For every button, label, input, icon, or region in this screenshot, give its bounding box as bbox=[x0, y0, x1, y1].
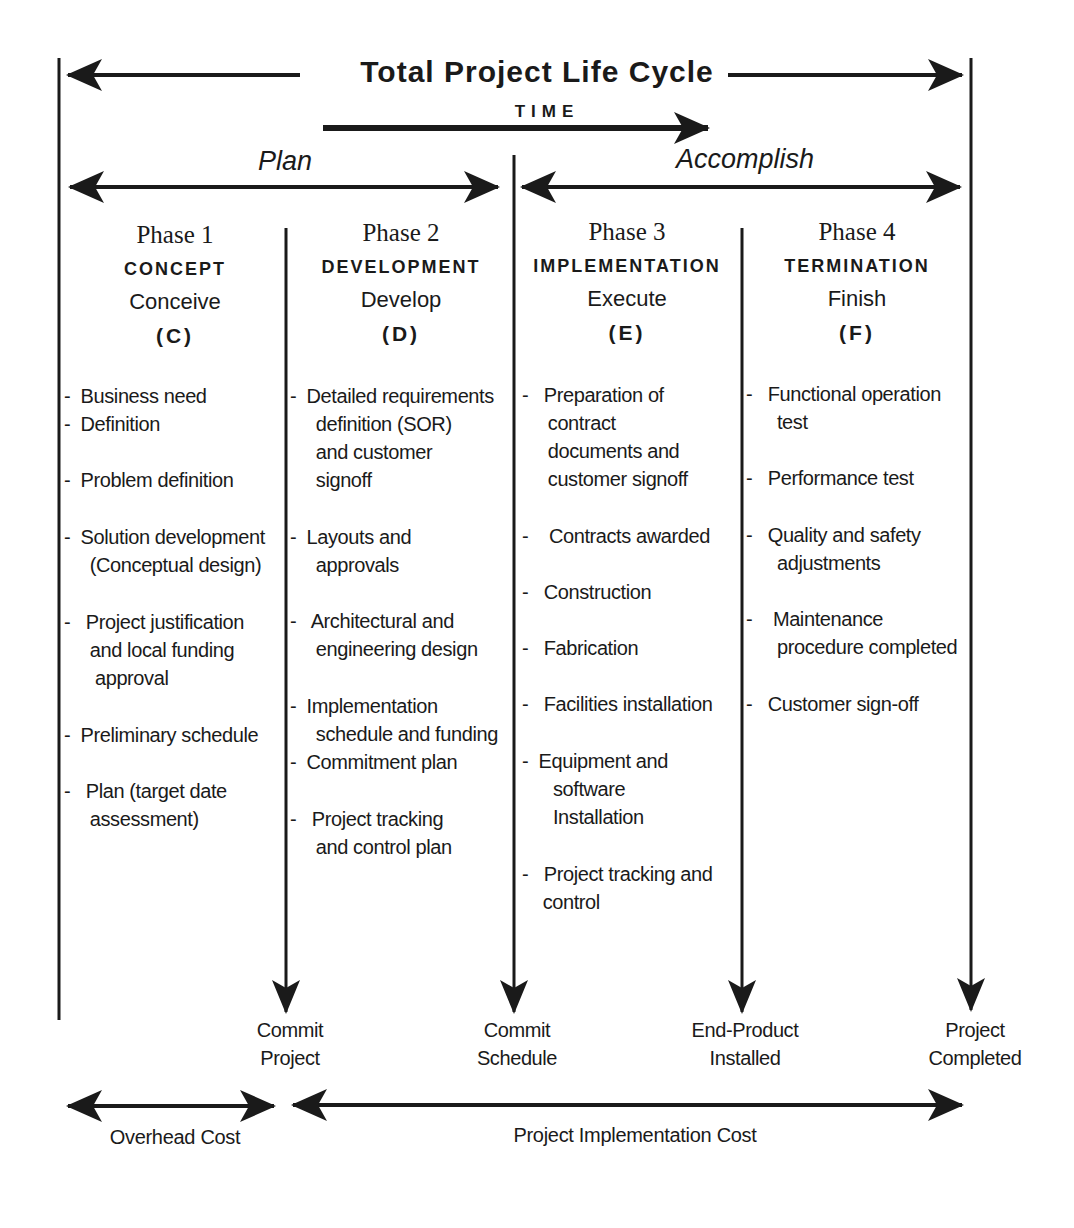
phase-1-item: - Problem definition bbox=[64, 466, 233, 494]
phase-3-verb: Execute bbox=[512, 283, 742, 315]
phase-4-item: - Quality and safety adjustments bbox=[746, 521, 921, 577]
phase-4-verb: Finish bbox=[742, 283, 972, 315]
milestone-project-completed: Project Completed bbox=[895, 1016, 1055, 1072]
milestone-end-product-installed: End-Product Installed bbox=[665, 1016, 825, 1072]
milestone-commit-schedule: Commit Schedule bbox=[437, 1016, 597, 1072]
implementation-cost-label: Project Implementation Cost bbox=[440, 1124, 830, 1147]
phase-1-verb: Conceive bbox=[60, 286, 290, 318]
phase-2-number: Phase 2 bbox=[286, 216, 516, 250]
phase-4-item: - Customer sign-off bbox=[746, 690, 918, 718]
phase-2-item: - Detailed requirements definition (SOR)… bbox=[290, 382, 494, 494]
overhead-cost-label: Overhead Cost bbox=[80, 1126, 270, 1149]
life-cycle-title: Total Project Life Cycle bbox=[0, 55, 1074, 89]
phase-2-name: DEVELOPMENT bbox=[286, 250, 516, 284]
phase-2-item: - Commitment plan bbox=[290, 748, 457, 776]
phase-1-number: Phase 1 bbox=[60, 218, 290, 252]
life-cycle-title-text: Total Project Life Cycle bbox=[346, 55, 728, 88]
phase-4-name: TERMINATION bbox=[742, 249, 972, 283]
phase-4-header: Phase 4 TERMINATION Finish (F) bbox=[742, 215, 972, 351]
phase-4-number: Phase 4 bbox=[742, 215, 972, 249]
phase-2-item: - Implementation schedule and funding bbox=[290, 692, 498, 748]
phase-1-item: - Plan (target date assessment) bbox=[64, 777, 227, 833]
phase-3-number: Phase 3 bbox=[512, 215, 742, 249]
phase-4-item: - Functional operation test bbox=[746, 380, 941, 436]
phase-4-item: - Maintenance procedure completed bbox=[746, 605, 957, 661]
phase-2-header: Phase 2 DEVELOPMENT Develop (D) bbox=[286, 216, 516, 352]
plan-label: Plan bbox=[200, 146, 370, 177]
phase-4-code: (F) bbox=[742, 315, 972, 351]
phase-3-item: - Construction bbox=[522, 578, 651, 606]
phase-3-item: - Preparation of contract documents and … bbox=[522, 381, 688, 493]
phase-2-item: - Architectural and engineering design bbox=[290, 607, 478, 663]
phase-1-code: (C) bbox=[60, 318, 290, 354]
phase-3-item: - Project tracking and control bbox=[522, 860, 713, 916]
phase-1-header: Phase 1 CONCEPT Conceive (C) bbox=[60, 218, 290, 354]
phase-2-code: (D) bbox=[286, 316, 516, 352]
accomplish-label: Accomplish bbox=[640, 144, 850, 175]
phase-3-item: - Equipment and software Installation bbox=[522, 747, 668, 831]
phase-3-header: Phase 3 IMPLEMENTATION Execute (E) bbox=[512, 215, 742, 351]
phase-3-code: (E) bbox=[512, 315, 742, 351]
phase-1-name: CONCEPT bbox=[60, 252, 290, 286]
time-label: TIME bbox=[0, 102, 1074, 122]
phase-1-item: - Preliminary schedule bbox=[64, 721, 258, 749]
phase-2-verb: Develop bbox=[286, 284, 516, 316]
phase-3-item: - Facilities installation bbox=[522, 690, 712, 718]
phase-1-item: - Solution development (Conceptual desig… bbox=[64, 523, 265, 579]
phase-3-item: - Fabrication bbox=[522, 634, 638, 662]
phase-3-name: IMPLEMENTATION bbox=[512, 249, 742, 283]
milestone-commit-project: Commit Project bbox=[210, 1016, 370, 1072]
phase-1-item: - Definition bbox=[64, 410, 160, 438]
phase-1-item: - Business need bbox=[64, 382, 207, 410]
phase-1-item: - Project justification and local fundin… bbox=[64, 608, 244, 692]
phase-4-item: - Performance test bbox=[746, 464, 914, 492]
phase-3-item: - Contracts awarded bbox=[522, 522, 710, 550]
phase-2-item: - Project tracking and control plan bbox=[290, 805, 452, 861]
phase-2-item: - Layouts and approvals bbox=[290, 523, 411, 579]
